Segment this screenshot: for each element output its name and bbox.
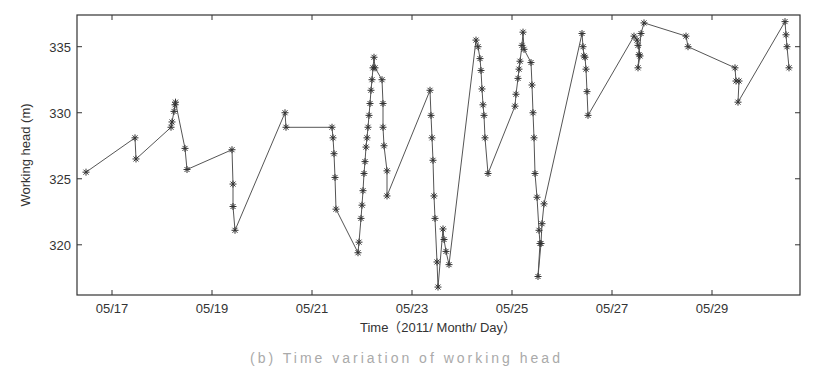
data-point-marker — [283, 124, 290, 131]
x-tick-label: 05/19 — [196, 301, 229, 316]
data-point-marker — [371, 54, 378, 61]
data-point-marker — [477, 55, 484, 62]
data-point-marker — [584, 88, 591, 95]
data-point-marker — [631, 33, 638, 40]
data-point-marker — [446, 261, 453, 268]
data-point-marker — [479, 85, 486, 92]
data-point-marker — [536, 227, 543, 234]
data-point-marker — [372, 64, 379, 71]
data-point-marker — [583, 66, 590, 73]
y-tick-label: 335 — [49, 40, 71, 55]
data-point-marker — [168, 124, 175, 131]
data-point-marker — [512, 103, 519, 110]
data-point-marker — [582, 54, 589, 61]
data-point-marker — [635, 42, 642, 49]
data-point-marker — [430, 157, 437, 164]
data-point-marker — [535, 273, 542, 280]
data-point-marker — [434, 258, 441, 265]
data-point-marker — [356, 239, 363, 246]
data-point-marker — [732, 64, 739, 71]
data-point-marker — [133, 155, 140, 162]
data-point-marker — [685, 43, 692, 50]
data-point-marker — [230, 203, 237, 210]
data-point-marker — [229, 146, 236, 153]
data-point-marker — [635, 64, 642, 71]
data-point-marker — [634, 37, 641, 44]
data-point-marker — [735, 99, 742, 106]
data-point-marker — [171, 108, 178, 115]
data-point-marker — [380, 100, 387, 107]
data-point-marker — [282, 109, 289, 116]
data-point-marker — [478, 67, 485, 74]
data-point-marker — [332, 174, 339, 181]
y-tick-label: 330 — [49, 106, 71, 121]
data-point-marker — [169, 118, 176, 125]
x-axis-label: Time（2011/ Month/ Day） — [360, 320, 516, 335]
data-point-marker — [380, 124, 387, 131]
data-point-marker — [641, 19, 648, 26]
x-tick-label: 05/27 — [596, 301, 629, 316]
data-point-marker — [443, 248, 450, 255]
data-point-marker — [384, 167, 391, 174]
x-tick-label: 05/23 — [396, 301, 429, 316]
data-point-marker — [361, 170, 368, 177]
x-tick-label: 05/29 — [696, 301, 729, 316]
x-tick-label: 05/25 — [496, 301, 529, 316]
data-point-marker — [515, 75, 522, 82]
data-point-marker — [539, 220, 546, 227]
data-point-marker — [481, 112, 488, 119]
data-point-marker — [368, 87, 375, 94]
data-point-marker — [232, 227, 239, 234]
y-axis-label: Working head (m) — [18, 103, 33, 206]
data-point-marker — [636, 51, 643, 58]
data-point-marker — [132, 134, 139, 141]
data-point-marker — [440, 225, 447, 232]
data-point-marker — [355, 249, 362, 256]
data-point-marker — [432, 215, 439, 222]
data-point-marker — [429, 134, 436, 141]
data-point-marker — [580, 43, 587, 50]
data-point-marker — [362, 158, 369, 165]
data-point-marker — [473, 37, 480, 44]
data-point-marker — [428, 112, 435, 119]
data-point-marker — [786, 64, 793, 71]
data-point-marker — [521, 46, 528, 53]
data-point-marker — [379, 76, 386, 83]
x-tick-label: 05/17 — [96, 301, 129, 316]
data-point-marker — [683, 33, 690, 40]
x-tick-label: 05/21 — [296, 301, 329, 316]
data-point-marker — [381, 142, 388, 149]
data-point-marker — [182, 145, 189, 152]
data-point-marker — [517, 58, 524, 65]
working-head-chart: 320325330335 05/1705/1905/2105/2305/2505… — [0, 0, 813, 345]
data-point-marker — [365, 124, 372, 131]
data-point-marker — [529, 82, 536, 89]
figure-caption: (b) Time variation of working head — [0, 350, 813, 366]
data-point-marker — [431, 192, 438, 199]
data-point-marker — [782, 18, 789, 25]
data-point-marker — [516, 66, 523, 73]
data-point-marker — [435, 284, 442, 291]
data-point-marker — [172, 99, 179, 106]
data-point-marker — [480, 101, 487, 108]
data-point-marker — [369, 76, 376, 83]
data-point-marker — [638, 30, 645, 37]
y-tick-label: 325 — [49, 172, 71, 187]
data-point-marker — [364, 134, 371, 141]
data-point-marker — [329, 124, 336, 131]
data-point-marker — [367, 100, 374, 107]
data-point-marker — [330, 134, 337, 141]
data-point-marker — [528, 59, 535, 66]
data-point-marker — [736, 78, 743, 85]
data-point-marker — [585, 112, 592, 119]
data-point-marker — [531, 134, 538, 141]
data-point-marker — [358, 215, 365, 222]
data-point-marker — [513, 91, 520, 98]
data-point-marker — [331, 150, 338, 157]
data-point-marker — [184, 166, 191, 173]
data-point-marker — [530, 109, 537, 116]
data-point-marker — [384, 192, 391, 199]
data-point-marker — [366, 112, 373, 119]
data-point-marker — [485, 170, 492, 177]
data-point-marker — [541, 200, 548, 207]
